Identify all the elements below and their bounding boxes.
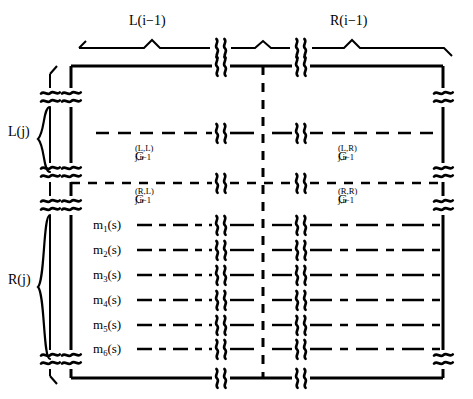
break-symbol-top-span-left (216, 39, 226, 58)
m-row-lines (137, 216, 443, 359)
break-symbol-frame-bottom-right (296, 369, 306, 388)
break-symbol-row-Rj-right (296, 174, 306, 193)
brace-Rj (38, 215, 50, 359)
break-symbol-frame-top-right (296, 57, 306, 76)
m-base: m (93, 242, 103, 257)
top-right-span-bracket (312, 40, 452, 56)
row-label-m4: m4(s) (93, 293, 121, 308)
m-arg: (s) (107, 341, 121, 356)
m-base: m (93, 292, 103, 307)
row-label-m6: m6(s) (93, 342, 121, 357)
break-symbol-frame-right-1 (434, 92, 453, 102)
diagram-graphics (0, 0, 473, 399)
m-base: m (93, 217, 103, 232)
figure-canvas: L(i−1) R(i−1) L(j) R(j) G (L,L)j,i−1 G (… (0, 0, 473, 399)
g-superscript: (R,R) (338, 187, 357, 196)
break-symbol-frame-right-4 (434, 354, 453, 364)
left-brace-label-Rj: R(j) (8, 273, 31, 287)
g-subscript: j,i−1 (135, 153, 151, 162)
top-middle-caret (231, 41, 290, 48)
row-label-m5: m5(s) (93, 318, 121, 333)
m-arg: (s) (107, 292, 121, 307)
top-left-span-bracket (79, 40, 210, 48)
break-symbol-frame-left-3 (62, 200, 81, 210)
brace-Lj (38, 107, 50, 172)
break-symbol-frame-bottom-left (216, 369, 226, 388)
m-base: m (93, 267, 103, 282)
row-label-m1: m1(s) (93, 218, 121, 233)
break-symbol-frame-left-2 (62, 167, 81, 177)
break-symbol-frame-top-left (216, 57, 226, 76)
row-label-m3: m3(s) (93, 268, 121, 283)
row-label-m2: m2(s) (93, 243, 121, 258)
m-arg: (s) (107, 217, 121, 232)
g-superscript: (L,L) (135, 144, 153, 153)
break-symbol-row-Lj-right (296, 124, 306, 143)
m-arg: (s) (107, 267, 121, 282)
m-arg: (s) (107, 317, 121, 332)
break-symbol-frame-right-2 (434, 167, 453, 177)
m-arg: (s) (107, 242, 121, 257)
g-superscript: (L,R) (338, 144, 357, 153)
break-symbol-frame-left-4 (62, 354, 81, 364)
top-left-span-label: L(i−1) (129, 14, 166, 28)
g-label-left-right: G (L,R)j,i−1 (338, 149, 348, 162)
g-label-right-left: G (R,L)j,i−1 (135, 192, 145, 205)
break-symbol-row-Lj-left (216, 124, 226, 143)
break-symbol-frame-right-3 (434, 200, 453, 210)
g-superscript: (R,L) (135, 187, 154, 196)
g-subscript: j,i−1 (135, 196, 151, 205)
g-subscript: j,i−1 (338, 153, 354, 162)
top-right-span-label: R(i−1) (330, 14, 367, 28)
break-symbol-frame-left-1 (62, 92, 81, 102)
break-symbol-row-Rj-left (216, 174, 226, 193)
g-subscript: j,i−1 (338, 196, 354, 205)
break-symbol-top-span-right (296, 39, 306, 58)
m-base: m (93, 317, 103, 332)
left-brace-label-Lj: L(j) (8, 125, 30, 139)
g-label-left-left: G (L,L)j,i−1 (135, 149, 145, 162)
g-label-right-right: G (R,R)j,i−1 (338, 192, 348, 205)
m-base: m (93, 341, 103, 356)
